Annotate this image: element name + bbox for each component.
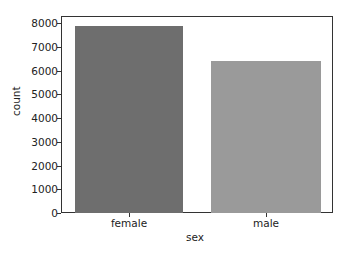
- ytick-label: 2000: [31, 160, 58, 172]
- ytick-label: 0: [51, 207, 58, 219]
- ytick-label: 1000: [31, 183, 58, 195]
- xtick-label-female: female: [89, 217, 169, 229]
- ytick-label: 3000: [31, 136, 58, 148]
- ytick-label: 6000: [31, 65, 58, 77]
- y-axis-label: count: [10, 86, 22, 116]
- ytick-label: 7000: [31, 41, 58, 53]
- ytick-label: 4000: [31, 112, 58, 124]
- bar-female: [75, 26, 183, 213]
- ytick-label: 8000: [31, 17, 58, 29]
- x-axis-label: sex: [186, 231, 204, 243]
- xtick-label-male: male: [226, 217, 306, 229]
- bar-male: [211, 61, 321, 213]
- ytick-label: 5000: [31, 88, 58, 100]
